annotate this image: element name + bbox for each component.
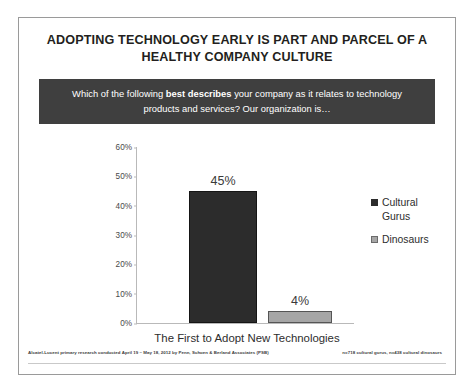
y-axis-tick: 10% — [116, 289, 137, 298]
bar-group: 45%4% — [137, 147, 354, 323]
y-axis-tick: 50% — [116, 172, 137, 181]
y-axis-tick: 0% — [120, 319, 137, 328]
question-banner: Which of the following best describes yo… — [39, 79, 435, 124]
bar-value-label: 45% — [189, 174, 257, 188]
footer-divider — [28, 363, 446, 364]
bar-slot: 45% — [189, 147, 257, 323]
y-axis-tick: 60% — [116, 143, 137, 152]
legend-label: Cultural Gurus — [382, 196, 434, 224]
bar-dinosaurs — [268, 311, 332, 323]
plot-area: 0%10%20%30%40%50%60% 45%4% — [136, 147, 354, 324]
legend-item[interactable]: Dinosaurs — [371, 233, 434, 247]
chart-legend: Cultural GurusDinosaurs — [371, 196, 434, 256]
banner-text-part1: Which of the following — [72, 88, 166, 99]
x-axis-label: The First to Adopt New Technologies — [129, 332, 365, 344]
legend-item[interactable]: Cultural Gurus — [371, 196, 434, 224]
sample-size-note: n=718 cultural gurus, n=438 cultural din… — [342, 350, 442, 355]
y-axis-tick: 40% — [116, 201, 137, 210]
bar-chart: 0%10%20%30%40%50%60% 45%4% Cultural Guru… — [19, 136, 455, 356]
page-title: ADOPTING TECHNOLOGY EARLY IS PART AND PA… — [45, 32, 429, 67]
bar-slot: 4% — [268, 147, 332, 323]
banner-text-emphasis: best describes — [166, 88, 232, 99]
legend-swatch-icon — [371, 236, 378, 243]
slide-frame: ADOPTING TECHNOLOGY EARLY IS PART AND PA… — [18, 17, 456, 375]
footer: Alcatel-Lucent primary research conducte… — [19, 344, 455, 360]
y-axis-tick: 20% — [116, 260, 137, 269]
bar-cultural-gurus — [189, 191, 257, 323]
legend-swatch-icon — [371, 199, 378, 206]
source-note: Alcatel-Lucent primary research conducte… — [28, 350, 269, 355]
y-axis-tick: 30% — [116, 231, 137, 240]
bar-value-label: 4% — [268, 294, 332, 308]
legend-label: Dinosaurs — [382, 233, 429, 247]
